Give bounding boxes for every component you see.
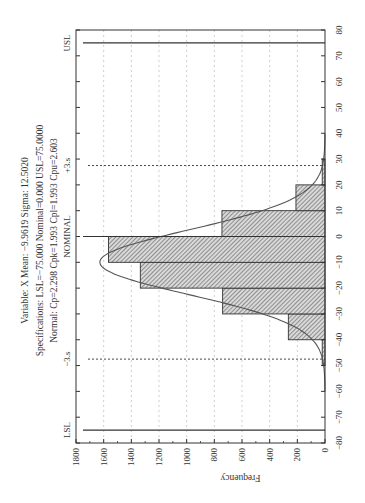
histogram-bar [222,211,325,237]
frequency-tick-label: 1000 [182,448,192,467]
value-tick-label: 40 [334,128,344,138]
frequency-tick-label: 1400 [126,448,136,467]
reference-line-label: +3.s [62,157,72,173]
capability-histogram: Variable: X Mean: −9.9619 Sigma: 12.5020… [0,0,365,503]
value-tick-label: 70 [334,51,344,61]
value-tick-label: 60 [334,77,344,87]
frequency-tick-label: 400 [265,448,275,462]
frequency-axis-label: Frequency [220,473,260,483]
frequency-tick-label: 0 [320,448,330,453]
title-line: Variable: X Mean: −9.9619 Sigma: 12.5020 [20,157,30,324]
value-tick-label: −10 [334,255,344,270]
value-tick-label: 0 [334,234,344,239]
histogram-bar [109,237,325,263]
value-tick-label: −30 [334,306,344,321]
reference-line-label: USL [62,34,72,51]
histogram-bars [109,159,325,366]
value-tick-label: −20 [334,281,344,296]
reference-line-label: NOMINAL [62,215,72,258]
frequency-tick-label: 200 [292,448,302,462]
frequency-tick-label: 600 [237,448,247,462]
frequency-tick-label: 800 [209,448,219,462]
value-tick-label: −70 [334,410,344,425]
frequency-tick-label: 1200 [154,448,164,467]
histogram-bar [296,185,325,211]
histogram-bar [140,262,325,288]
value-tick-label: 80 [334,25,344,35]
value-tick-label: −50 [334,358,344,373]
histogram-bar [223,288,325,314]
value-tick-label: 50 [334,102,344,112]
value-tick-label: −60 [334,384,344,399]
frequency-tick-label: 1600 [99,448,109,467]
value-tick-label: −40 [334,332,344,347]
value-tick-label: −80 [334,435,344,450]
value-tick-label: 30 [334,154,344,164]
title-line: Specifications: LSL=−75.000 Nominal=0.00… [35,125,45,357]
frequency-label: Frequency [220,473,260,483]
value-tick-label: 20 [334,180,344,190]
frequency-tick-label: 1800 [71,448,81,467]
value-tick-label: 10 [334,206,344,216]
reference-line-label: LSL [62,422,72,438]
reference-line-label: −3.s [62,351,72,367]
chart-title: Variable: X Mean: −9.9619 Sigma: 12.5020… [20,125,59,357]
reference-lines: LSL−3.sNOMINAL+3.sUSL [62,34,325,438]
title-line: Normal: Cp=2.298 Cpk=1.993 Cpl=1.993 Cpu… [49,138,59,343]
